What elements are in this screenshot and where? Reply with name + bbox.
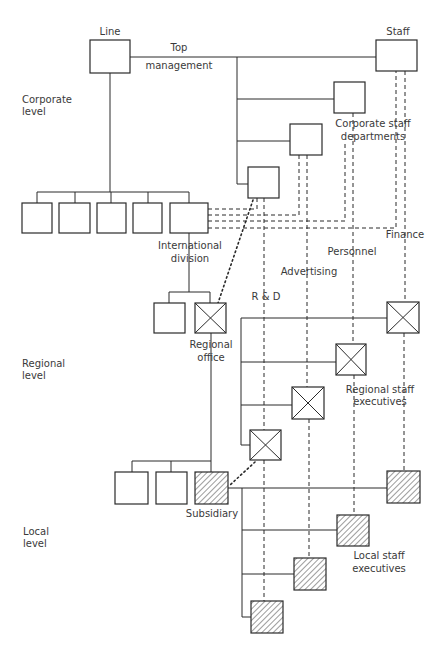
corporate-staff-label-1: Corporate staff <box>335 118 411 129</box>
local-box-2 <box>156 472 187 504</box>
regional-level-label-1: Regional <box>22 358 65 369</box>
regional-office-box <box>195 303 226 333</box>
regional-office-label-1: Regional <box>189 339 232 350</box>
top-label: Top <box>170 42 188 53</box>
local-personnel-box <box>337 515 369 546</box>
regional-office-label-2: office <box>197 352 224 363</box>
top-management-staff-box <box>376 40 417 71</box>
local-staff-label-2: executives <box>352 563 406 574</box>
international-label-1: International <box>158 240 222 251</box>
corporate-advertising-box <box>290 124 322 155</box>
local-box-1 <box>115 472 148 504</box>
local-level-label-2: level <box>23 538 47 549</box>
dotted-link-regional-local <box>230 462 255 485</box>
local-rd-box <box>251 601 283 633</box>
regional-staff-label-1: Regional staff <box>346 384 416 395</box>
top-management-line-box <box>90 40 130 73</box>
division-box-3 <box>97 203 126 233</box>
local-level <box>115 333 420 633</box>
personnel-label: Personnel <box>328 246 377 257</box>
corporate-rd-box <box>248 167 279 198</box>
corporate-staff-label-2: departments <box>341 131 405 142</box>
rd-label: R & D <box>252 291 281 302</box>
regional-box-plain <box>154 303 185 333</box>
local-staff-label-1: Local staff <box>353 550 405 561</box>
advertising-label: Advertising <box>281 266 338 277</box>
regional-advertising-box <box>292 387 324 419</box>
corporate-personnel-box <box>334 82 365 113</box>
management-label: management <box>146 60 213 71</box>
finance-label: Finance <box>386 229 424 240</box>
corporate-level-label-2: level <box>22 106 46 117</box>
local-advertising-box <box>294 558 326 590</box>
international-division-box <box>170 203 208 233</box>
regional-rd-box <box>250 430 281 460</box>
regional-personnel-box <box>336 344 366 375</box>
regional-finance-box <box>387 302 419 333</box>
line-label: Line <box>100 26 121 37</box>
division-box-4 <box>133 203 162 233</box>
division-box-1 <box>22 203 52 233</box>
subsidiary-label: Subsidiary <box>186 508 238 519</box>
international-label-2: division <box>171 253 209 264</box>
local-level-label-1: Local <box>23 526 49 537</box>
local-finance-box <box>387 471 420 503</box>
subsidiary-box <box>195 472 228 504</box>
division-box-2 <box>59 203 90 233</box>
org-chart: Line Staff Top management Corporate leve… <box>0 0 443 649</box>
regional-staff-label-2: executives <box>353 396 407 407</box>
regional-level-label-2: level <box>22 370 46 381</box>
staff-label: Staff <box>386 26 410 37</box>
corporate-level-label-1: Corporate <box>22 94 72 105</box>
